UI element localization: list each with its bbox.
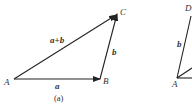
panel-b-partial: D A b	[171, 3, 192, 89]
panel-a-caption: (a)	[54, 93, 64, 103]
vector-a-plus-b-label: a+b	[50, 35, 65, 45]
point-c-label: C	[120, 7, 127, 17]
point-d-label: D	[184, 3, 192, 13]
vector-addition-diagram: A B C a b a+b (a) D A b	[0, 0, 192, 108]
vector-b-label: b	[112, 47, 117, 57]
vector-b-label-panel-b: b	[177, 39, 182, 49]
vector-a-plus-b-arrow	[14, 15, 116, 79]
vector-a-label: a	[55, 81, 60, 91]
point-a-label-panel-b: A	[171, 79, 178, 89]
panel-a: A B C a b a+b (a)	[3, 7, 127, 103]
point-b-label: B	[103, 76, 109, 86]
point-a-label: A	[3, 77, 10, 87]
